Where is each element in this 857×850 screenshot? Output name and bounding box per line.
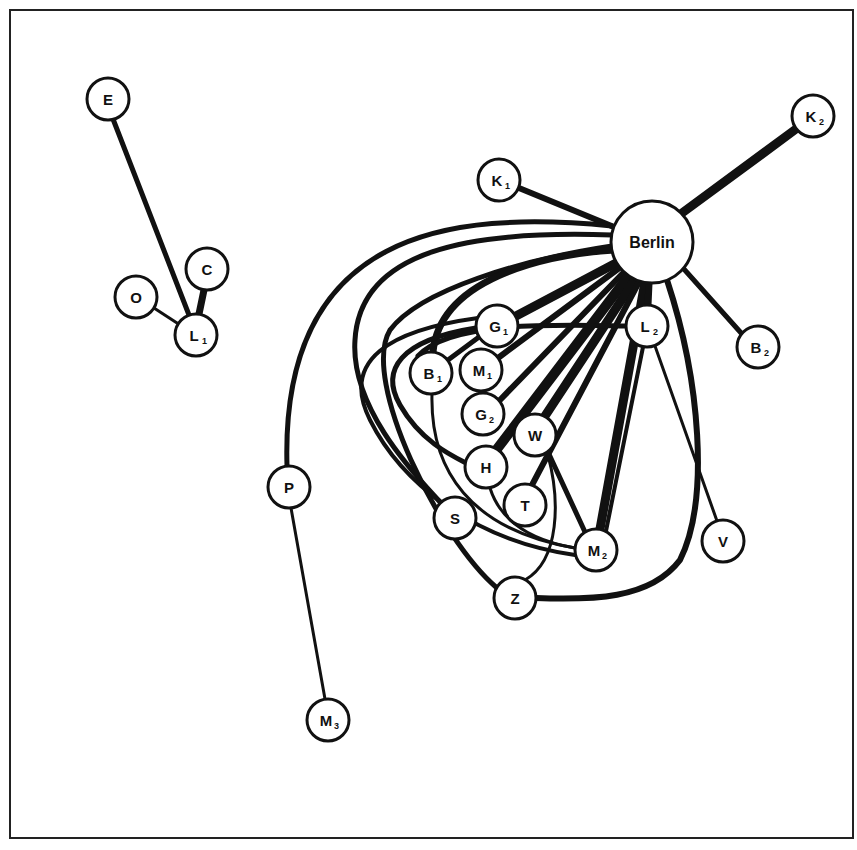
- node-label: T: [520, 497, 529, 514]
- node-subscript: 2: [602, 551, 607, 561]
- network-diagram: ECOL1BerlinK1K2B2G1L2B1M1G2WHTSVM2ZPM3: [0, 0, 857, 850]
- node-subscript: 1: [202, 336, 207, 346]
- node-subscript: 3: [334, 721, 339, 731]
- node-label: V: [718, 533, 728, 550]
- edge-berlin-l2: [648, 283, 649, 305]
- node-subscript: 1: [437, 374, 442, 384]
- node-m1: M1: [460, 349, 502, 391]
- node-label: K: [806, 108, 817, 125]
- node-label: W: [528, 427, 543, 444]
- node-subscript: 1: [505, 181, 510, 191]
- node-label: G: [489, 318, 501, 335]
- node-label: B: [751, 339, 762, 356]
- node-v: V: [702, 520, 744, 562]
- node-label: M: [473, 362, 486, 379]
- node-label: G: [475, 406, 487, 423]
- node-b1: B1: [410, 352, 452, 394]
- node-o: O: [115, 276, 157, 318]
- node-label: Z: [510, 590, 519, 607]
- node-k1: K1: [478, 159, 520, 201]
- node-h: H: [465, 446, 507, 488]
- node-label: H: [481, 459, 492, 476]
- node-z: Z: [494, 577, 536, 619]
- edge-p-m3: [291, 508, 325, 699]
- edges-layer: [113, 119, 796, 699]
- node-g2: G2: [462, 393, 504, 435]
- node-label: Berlin: [629, 234, 674, 251]
- node-label: M: [320, 712, 333, 729]
- node-l1: L1: [175, 314, 217, 356]
- node-subscript: 2: [819, 117, 824, 127]
- node-subscript: 2: [764, 348, 769, 358]
- node-label: E: [103, 91, 113, 108]
- node-label: M: [588, 542, 601, 559]
- edge-c-l1: [199, 290, 204, 314]
- edge-o-l1: [154, 308, 177, 323]
- node-w: W: [514, 414, 556, 456]
- node-b2: B2: [737, 326, 779, 368]
- node-label: C: [202, 261, 213, 278]
- diagram-frame: [10, 10, 853, 838]
- node-label: B: [424, 365, 435, 382]
- node-label: L: [189, 327, 198, 344]
- node-label: K: [492, 172, 503, 189]
- node-m3: M3: [307, 699, 349, 741]
- node-label: S: [450, 510, 460, 527]
- node-subscript: 1: [503, 327, 508, 337]
- node-m2: M2: [575, 529, 617, 571]
- node-label: O: [130, 289, 142, 306]
- node-l2: L2: [626, 305, 668, 347]
- node-p: P: [268, 466, 310, 508]
- node-c: C: [186, 248, 228, 290]
- nodes-layer: ECOL1BerlinK1K2B2G1L2B1M1G2WHTSVM2ZPM3: [87, 78, 834, 741]
- node-s: S: [434, 497, 476, 539]
- node-g1: G1: [476, 305, 518, 347]
- edge-l2-v: [655, 346, 717, 521]
- edge-berlin-b2: [683, 268, 742, 334]
- edge-berlin-k2: [682, 129, 796, 213]
- node-subscript: 2: [489, 415, 494, 425]
- node-subscript: 2: [653, 327, 658, 337]
- node-subscript: 1: [487, 371, 492, 381]
- node-e: E: [87, 78, 129, 120]
- node-k2: K2: [792, 95, 834, 137]
- node-label: P: [284, 479, 294, 496]
- node-t: T: [504, 484, 546, 526]
- node-label: L: [640, 318, 649, 335]
- node-berlin: Berlin: [611, 201, 693, 283]
